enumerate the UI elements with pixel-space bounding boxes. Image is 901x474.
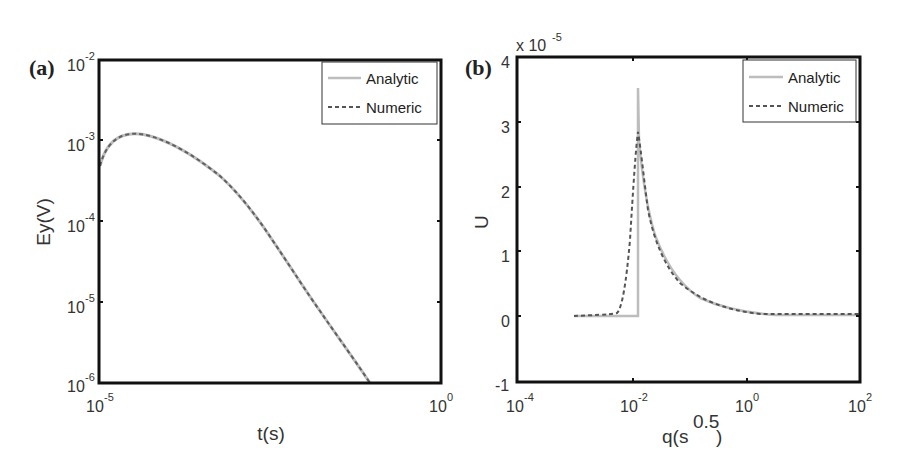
x-tick: 102 xyxy=(848,391,872,415)
svg-text:-5: -5 xyxy=(104,391,114,403)
svg-text:10: 10 xyxy=(67,378,85,395)
y-tick: 10-6 xyxy=(67,371,95,395)
x-tick: 10-4 xyxy=(506,391,534,415)
panel-b-legend: Analytic Numeric xyxy=(743,60,856,122)
x-tick: 10-2 xyxy=(620,391,648,415)
svg-text:q(s: q(s xyxy=(662,426,688,447)
panel-a-y-label: Ey(V) xyxy=(33,198,54,246)
svg-text:x 10: x 10 xyxy=(516,37,546,54)
svg-text:10: 10 xyxy=(67,57,85,74)
y-tick: 2 xyxy=(501,184,510,201)
y-tick: -1 xyxy=(495,377,509,394)
svg-text:10: 10 xyxy=(67,137,85,154)
svg-text:0: 0 xyxy=(753,391,759,403)
panel-a-legend: Analytic Numeric xyxy=(322,62,437,124)
legend-label-analytic: Analytic xyxy=(788,69,841,86)
svg-text:-2: -2 xyxy=(638,391,648,403)
svg-text:10: 10 xyxy=(67,299,85,316)
svg-text:-5: -5 xyxy=(85,292,95,304)
panel-a-tick-marks xyxy=(99,140,441,302)
y-tick: 10-5 xyxy=(67,292,95,316)
x-tick: 10-5 xyxy=(86,391,114,415)
svg-text:2: 2 xyxy=(866,391,872,403)
svg-text:-6: -6 xyxy=(85,371,95,383)
panel-b-label: (b) xyxy=(465,55,492,80)
svg-text:): ) xyxy=(716,426,722,447)
svg-text:10: 10 xyxy=(429,398,447,415)
svg-text:-2: -2 xyxy=(85,50,95,62)
svg-text:10: 10 xyxy=(735,398,753,415)
y-tick: 0 xyxy=(501,313,510,330)
y-tick: 10-3 xyxy=(67,130,95,154)
svg-text:10: 10 xyxy=(86,398,104,415)
panel-a-x-label: t(s) xyxy=(257,423,284,444)
svg-text:10: 10 xyxy=(506,398,524,415)
panel-b-x-ticks: 10-4 10-2 100 102 xyxy=(506,391,872,415)
panel-b-x-label: q(s 0.5 ) xyxy=(662,411,722,447)
x-tick: 100 xyxy=(429,391,453,415)
panel-a-label: (a) xyxy=(29,55,55,80)
x-tick: 100 xyxy=(735,391,759,415)
legend-label-analytic: Analytic xyxy=(366,70,419,87)
numeric-curve xyxy=(100,134,370,383)
panel-a-series xyxy=(100,134,370,383)
y-tick: 10-4 xyxy=(67,211,95,235)
numeric-curve xyxy=(574,132,860,316)
panel-b-y-label: U xyxy=(471,215,492,229)
panel-a-y-ticks: 10-2 10-3 10-4 10-5 10-6 xyxy=(67,50,95,395)
svg-text:-5: -5 xyxy=(552,31,562,43)
y-tick: 10-2 xyxy=(67,50,95,74)
svg-text:-3: -3 xyxy=(85,130,95,142)
legend-label-numeric: Numeric xyxy=(788,98,844,115)
svg-text:-4: -4 xyxy=(524,391,534,403)
panel-b-y-multiplier: x 10 -5 xyxy=(516,31,562,54)
legend-label-numeric: Numeric xyxy=(366,99,422,116)
svg-text:10: 10 xyxy=(848,398,866,415)
panel-b: (b) x 10 -5 4 3 2 1 0 -1 10-4 10-2 100 1… xyxy=(465,31,872,447)
panel-b-y-ticks: 4 3 2 1 0 -1 xyxy=(495,54,510,394)
panel-a: (a) 10-2 10-3 10-4 10-5 10-6 10-5 100 t(… xyxy=(29,50,453,444)
svg-text:-4: -4 xyxy=(85,211,95,223)
y-tick: 1 xyxy=(501,248,510,265)
svg-text:10: 10 xyxy=(620,398,638,415)
panel-a-x-ticks: 10-5 100 xyxy=(86,391,453,415)
svg-text:0: 0 xyxy=(447,391,453,403)
y-tick: 3 xyxy=(501,119,510,136)
y-tick: 4 xyxy=(501,54,510,71)
analytic-curve xyxy=(100,134,370,383)
svg-text:10: 10 xyxy=(67,218,85,235)
figure: (a) 10-2 10-3 10-4 10-5 10-6 10-5 100 t(… xyxy=(0,0,901,474)
